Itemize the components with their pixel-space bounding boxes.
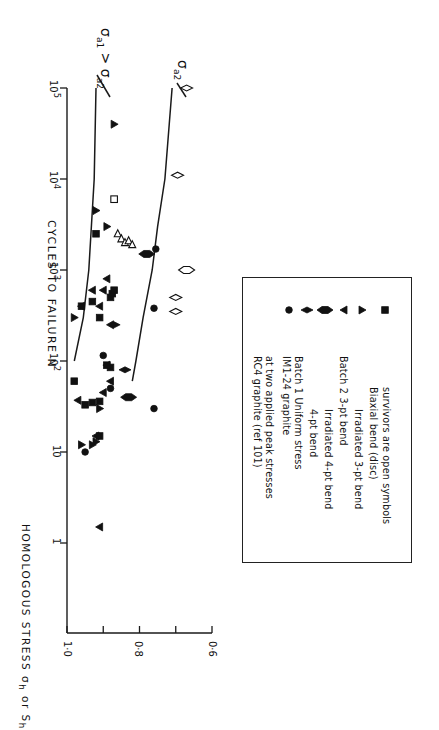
legend-line-10: survivors are open symbols bbox=[381, 387, 391, 524]
circle-marker bbox=[151, 305, 158, 312]
open-fat-diamond-marker bbox=[179, 267, 195, 274]
y-tick-0-6: 0·6 bbox=[207, 641, 218, 657]
x-tick-1000: 103 bbox=[48, 262, 62, 280]
square-marker bbox=[89, 298, 96, 305]
open-triangle-up-marker bbox=[114, 230, 121, 237]
x-tick-100000: 105 bbox=[48, 80, 62, 98]
y-tick-1-0: 1·0 bbox=[62, 641, 73, 657]
curve1-gt: > σ bbox=[98, 48, 114, 78]
square-marker bbox=[82, 402, 89, 409]
x-tick-exp: 5 bbox=[52, 93, 62, 98]
x-tick-text: 10 bbox=[48, 353, 59, 366]
y-axis-title-mid: or S bbox=[20, 691, 32, 723]
triangle-left-marker bbox=[74, 396, 81, 404]
square-marker bbox=[78, 303, 85, 310]
open-diamond-marker bbox=[172, 172, 184, 178]
x-tick-text: 10 bbox=[48, 262, 59, 275]
open-diamond-marker bbox=[170, 294, 182, 300]
circle-marker bbox=[107, 385, 114, 392]
y-axis-title: HOMOLOGOUS STRESS σh or Sh bbox=[17, 524, 32, 730]
legend-line-5: 4-pt bend bbox=[308, 409, 318, 457]
triangle-right-marker bbox=[71, 314, 78, 322]
triangle-left-marker bbox=[107, 377, 114, 385]
diamond-marker bbox=[119, 367, 131, 373]
circle-marker bbox=[100, 352, 107, 359]
square-marker bbox=[93, 230, 100, 237]
legend-line-3: IM1-24 graphite bbox=[281, 356, 291, 435]
legend-line-9: Biaxial bend (disc) bbox=[368, 387, 378, 480]
triangle-right-marker bbox=[93, 207, 100, 215]
legend-line-7: Batch 2 3-pt bend bbox=[338, 356, 348, 446]
open-diamond-marker bbox=[170, 308, 182, 314]
data-markers bbox=[71, 85, 195, 531]
x-tick-exp: 3 bbox=[52, 275, 62, 280]
curve1-sigma: σ bbox=[98, 28, 114, 37]
triangle-right-marker bbox=[97, 405, 104, 413]
axes bbox=[67, 88, 212, 633]
legend-line-4: Batch 1 Uniform stress bbox=[293, 356, 303, 470]
curve1-sub-a1: a1 bbox=[95, 37, 105, 48]
x-tick-text: 10 bbox=[48, 80, 59, 93]
square-marker bbox=[96, 314, 103, 321]
triangle-left-marker bbox=[96, 523, 103, 531]
triangle-left-marker bbox=[107, 321, 114, 329]
y-axis-title-main: HOMOLOGOUS STRESS σ bbox=[20, 524, 32, 684]
y-tick-0-8: 0·8 bbox=[133, 641, 144, 657]
curve-2 bbox=[132, 88, 172, 381]
curve-1 bbox=[74, 88, 96, 361]
x-axis-title: CYCLES TO FAILURE N bbox=[45, 220, 58, 368]
legend-line-2: at two applied peak stresses bbox=[264, 356, 274, 499]
circle-marker bbox=[82, 449, 89, 456]
square-marker bbox=[111, 287, 118, 294]
curve2-label: σa2 bbox=[172, 60, 191, 80]
triangle-right-marker bbox=[79, 441, 86, 449]
circle-marker bbox=[153, 246, 160, 253]
x-tick-text: 10 bbox=[48, 171, 59, 184]
fat-diamond-marker bbox=[121, 394, 137, 401]
square-marker bbox=[89, 399, 96, 406]
square-marker bbox=[96, 433, 103, 440]
curve1-sub-a2: a2 bbox=[95, 78, 105, 89]
triangle-right-marker bbox=[104, 223, 111, 231]
curve1-label: σa1 > σa2 bbox=[95, 28, 114, 89]
y-axis-title-sub2: h bbox=[17, 723, 27, 730]
fat-diamond-marker bbox=[139, 250, 155, 257]
legend-line-1: RC4 graphite (ref 101) bbox=[252, 356, 262, 468]
x-tick-10000: 104 bbox=[48, 171, 62, 189]
triangle-left-marker bbox=[99, 286, 106, 294]
x-tick-1: 1 bbox=[51, 538, 62, 544]
square-marker bbox=[71, 378, 78, 385]
x-tick-text: 10 bbox=[51, 445, 62, 458]
x-tick-exp: 4 bbox=[52, 184, 62, 189]
open-square-marker bbox=[111, 196, 118, 203]
x-tick-10: 10 bbox=[51, 445, 62, 458]
square-marker bbox=[96, 398, 103, 405]
triangle-right-marker bbox=[111, 120, 118, 128]
triangle-left-marker bbox=[99, 389, 106, 397]
x-tick-100: 102 bbox=[48, 353, 62, 371]
triangle-left-marker bbox=[96, 302, 103, 310]
circle-marker bbox=[151, 405, 158, 412]
legend-line-8: Irradiated 3-pt bend bbox=[353, 409, 363, 510]
fit-curves bbox=[74, 75, 186, 381]
x-tick-exp: 2 bbox=[52, 366, 62, 371]
x-tick-text: 1 bbox=[51, 538, 62, 544]
curve2-sub: a2 bbox=[172, 69, 182, 80]
curve2-sigma: σ bbox=[175, 60, 191, 69]
triangle-left-marker bbox=[88, 286, 95, 294]
square-marker bbox=[104, 362, 111, 369]
legend-line-6: Irradiated 4-pt bend bbox=[323, 409, 333, 510]
triangle-left-marker bbox=[103, 275, 110, 283]
